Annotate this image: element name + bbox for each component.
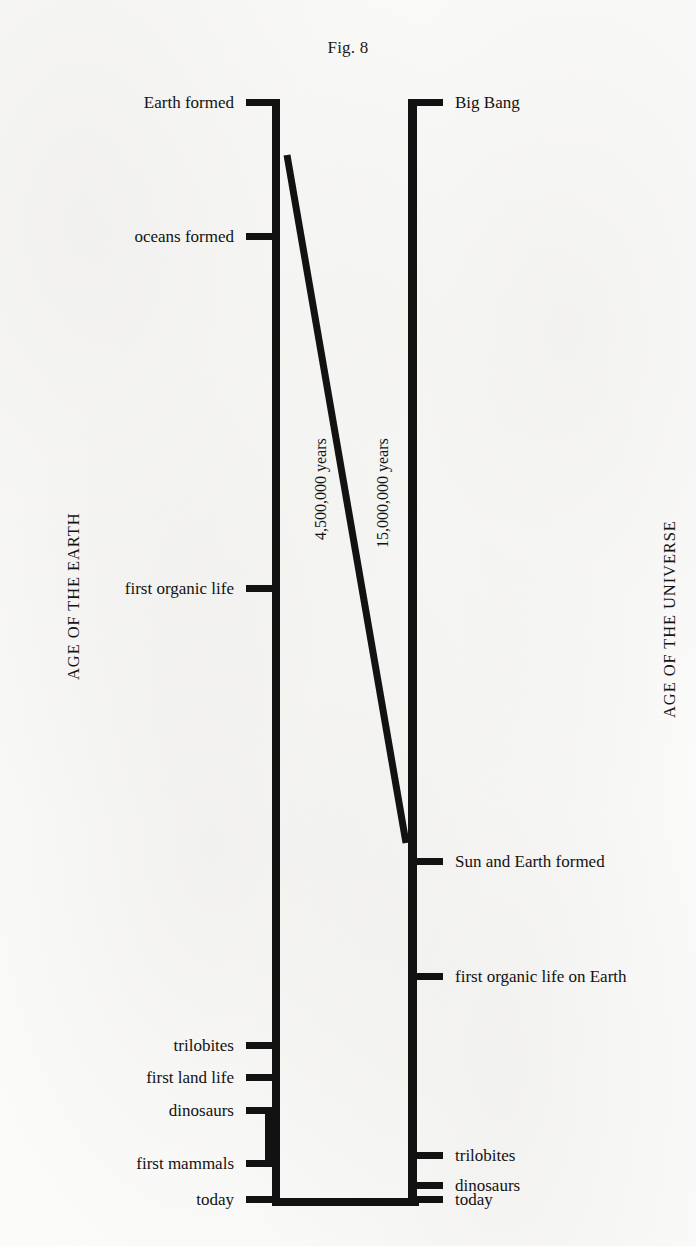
tick-left-earth-formed xyxy=(246,99,272,106)
event-label-right-big-bang: Big Bang xyxy=(455,94,520,111)
event-label-left-first-land-life: first land life xyxy=(146,1069,234,1086)
today-connector-line xyxy=(272,1198,419,1206)
tick-right-today xyxy=(417,1196,443,1203)
event-label-right-today: today xyxy=(455,1191,493,1208)
span-label-universe-duration: 15,000,000 years xyxy=(374,438,392,548)
axis-label-age-of-the-universe: AGE OF THE UNIVERSE xyxy=(660,520,680,718)
tick-right-sun-and-earth-formed xyxy=(417,858,443,865)
tick-left-first-organic-life xyxy=(246,585,272,592)
figure-caption: Fig. 8 xyxy=(0,38,696,58)
event-label-left-oceans-formed: oceans formed xyxy=(134,228,234,245)
timeline-bar-earth-thickened-segment xyxy=(265,1110,280,1166)
event-label-left-first-mammals: first mammals xyxy=(136,1155,234,1172)
tick-left-today xyxy=(246,1196,272,1203)
event-label-left-first-organic-life: first organic life xyxy=(125,580,234,597)
event-label-right-first-organic-life-on-earth: first organic life on Earth xyxy=(455,968,627,985)
event-label-right-trilobites: trilobites xyxy=(455,1147,515,1164)
tick-left-trilobites xyxy=(246,1042,272,1049)
tick-right-first-organic-life-on-earth xyxy=(417,973,443,980)
tick-left-first-land-life xyxy=(246,1074,272,1081)
scale-comparison-diagonal-line xyxy=(0,0,696,1246)
tick-left-oceans-formed xyxy=(246,233,272,240)
event-label-left-today: today xyxy=(196,1191,234,1208)
tick-left-first-mammals xyxy=(246,1160,272,1167)
axis-label-age-of-the-earth: AGE OF THE EARTH xyxy=(64,512,84,680)
timeline-bar-earth xyxy=(272,99,280,1205)
tick-right-big-bang xyxy=(417,99,443,106)
tick-right-trilobites xyxy=(417,1152,443,1159)
event-label-left-earth-formed: Earth formed xyxy=(144,94,234,111)
tick-left-dinosaurs xyxy=(246,1107,272,1114)
event-label-right-sun-and-earth-formed: Sun and Earth formed xyxy=(455,853,605,870)
event-label-left-dinosaurs: dinosaurs xyxy=(169,1102,234,1119)
paper-texture xyxy=(0,0,696,1246)
timeline-bar-universe xyxy=(408,99,417,1206)
span-label-earth-duration: 4,500,000 years xyxy=(312,438,330,540)
figure-page: Fig. 8 AGE OF THE EARTH AGE OF THE UNIVE… xyxy=(0,0,696,1246)
tick-right-dinosaurs xyxy=(417,1182,443,1189)
event-label-left-trilobites: trilobites xyxy=(174,1037,234,1054)
